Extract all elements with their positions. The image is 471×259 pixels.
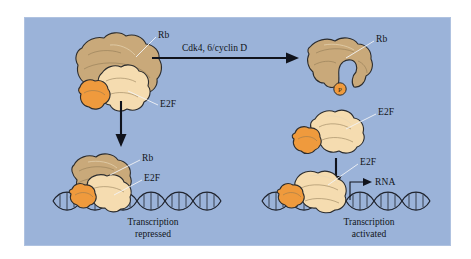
label-reaction-arrow: Cdk4, 6/cyclin D (182, 43, 247, 53)
rb-e2f-on-dna (69, 154, 142, 212)
caption-transcription-activated: Transcription activated (314, 217, 424, 241)
caption-repressed-line1: Transcription (98, 217, 208, 229)
label-rna: RNA (375, 177, 395, 188)
free-e2f-complex (292, 110, 376, 153)
label-e2f-bottom-right: E2F (360, 157, 376, 168)
rb-e2f-complex-free (76, 33, 162, 111)
reaction-arrow (152, 53, 299, 64)
caption-transcription-repressed: Transcription repressed (98, 217, 208, 241)
label-rb-top-left: Rb (158, 30, 169, 41)
e2f-on-dna (277, 164, 372, 213)
phosphorylated-rb: P (308, 38, 374, 95)
label-e2f-top-left: E2F (160, 99, 176, 110)
caption-repressed-line2: repressed (98, 229, 208, 241)
figure-root: P (0, 0, 471, 259)
phosphate-letter: P (338, 86, 342, 94)
label-e2f-mid-right: E2F (378, 107, 394, 118)
label-e2f-bottom-left: E2F (144, 173, 160, 184)
caption-activated-line2: activated (314, 229, 424, 241)
caption-activated-line1: Transcription (314, 217, 424, 229)
label-rb-top-right: Rb (376, 34, 387, 45)
label-rb-bottom-left: Rb (142, 153, 153, 164)
orange-subunit-shape (79, 80, 110, 109)
diagram-panel: P (24, 17, 451, 246)
free-e2f-orange-subunit (292, 127, 321, 154)
